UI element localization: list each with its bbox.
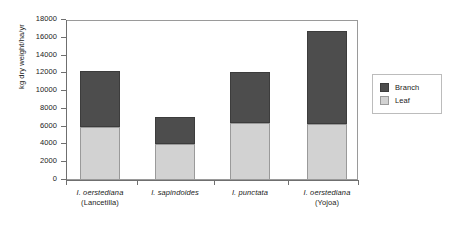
- y-axis-tick-label: 16000: [0, 32, 57, 41]
- y-axis-tick-label: 2000: [0, 156, 57, 165]
- legend-label-leaf: Leaf: [395, 96, 410, 105]
- x-axis-separator-tick: [214, 180, 215, 185]
- y-axis-line: [66, 20, 67, 181]
- x-axis-category-species: I. oerstediana: [282, 188, 372, 198]
- y-axis-tick-mark: [61, 37, 66, 38]
- bar-segment-branch: [155, 117, 195, 144]
- y-axis-tick-mark: [61, 108, 66, 109]
- stacked-bar-chart-figure: kg dry weight/ha/yr 18000160001400012000…: [0, 0, 449, 225]
- legend-swatch-leaf-icon: [380, 96, 389, 105]
- bar-segment-branch: [307, 31, 347, 124]
- y-axis-tick-label: 14000: [0, 50, 57, 59]
- legend-item-leaf: Leaf: [380, 94, 436, 107]
- y-axis-tick-mark: [61, 161, 66, 162]
- y-axis-tick-label: 10000: [0, 85, 57, 94]
- y-axis-tick-label: 18000: [0, 14, 57, 23]
- x-axis-category-site: (Lancetilla): [55, 198, 145, 208]
- x-axis-line: [66, 180, 359, 181]
- bar-segment-leaf: [80, 127, 120, 180]
- y-axis-tick-mark: [61, 126, 66, 127]
- legend-box: Branch Leaf: [372, 74, 442, 114]
- y-axis-tick-label: 8000: [0, 103, 57, 112]
- bar-segment-branch: [80, 71, 120, 127]
- x-axis-category-site: (Yojoa): [282, 198, 372, 208]
- x-axis-separator-tick: [288, 180, 289, 185]
- y-axis-tick-mark: [61, 90, 66, 91]
- bar-segment-leaf: [155, 144, 195, 180]
- bar-stack: [230, 20, 270, 180]
- y-axis-tick-mark: [61, 72, 66, 73]
- x-axis-separator-tick: [358, 180, 359, 185]
- y-axis-tick-label: 0: [0, 174, 57, 183]
- y-axis-tick-mark: [61, 19, 66, 20]
- y-axis-tick-mark: [61, 55, 66, 56]
- bar-segment-leaf: [307, 124, 347, 180]
- legend-swatch-branch-icon: [380, 83, 389, 92]
- bar-stack: [80, 20, 120, 180]
- y-axis-tick-mark: [61, 143, 66, 144]
- legend-label-branch: Branch: [395, 83, 419, 92]
- bar-stack: [307, 20, 347, 180]
- x-axis-separator-tick: [66, 180, 67, 185]
- y-axis-tick-label: 4000: [0, 138, 57, 147]
- bar-segment-leaf: [230, 123, 270, 180]
- x-axis-separator-tick: [137, 180, 138, 185]
- legend-item-branch: Branch: [380, 81, 436, 94]
- y-axis-tick-label: 12000: [0, 67, 57, 76]
- bar-segment-branch: [230, 72, 270, 124]
- y-axis-tick-label: 6000: [0, 121, 57, 130]
- bar-stack: [155, 20, 195, 180]
- x-axis-category-label: I. oerstediana(Yojoa): [282, 188, 372, 207]
